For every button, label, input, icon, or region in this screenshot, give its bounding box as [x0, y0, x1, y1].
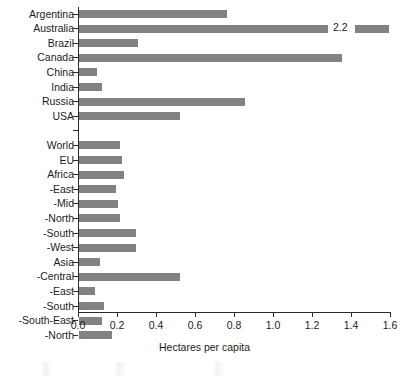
x-axis-tick-label: 0.6 — [175, 319, 215, 331]
bar-row: -South — [0, 299, 409, 314]
bar — [79, 185, 116, 193]
x-axis-tick — [195, 313, 196, 317]
category-label: Africa — [47, 167, 74, 182]
x-axis-tick-label: 1.0 — [253, 319, 293, 331]
bar-row: EU — [0, 153, 409, 168]
bar-chart: ArgentinaAustralia2.2BrazilCanadaChinaIn… — [0, 0, 409, 376]
bar — [79, 200, 118, 208]
bar-row: USA — [0, 109, 409, 124]
category-label: Russia — [42, 94, 74, 109]
bar — [79, 141, 120, 149]
scan-artifact — [0, 362, 409, 376]
category-label: Australia — [33, 21, 74, 36]
bar-row: Brazil — [0, 36, 409, 51]
bar-row: India — [0, 80, 409, 95]
category-label: World — [47, 138, 74, 153]
category-label: India — [51, 80, 74, 95]
category-label: EU — [59, 153, 74, 168]
bar — [79, 214, 120, 222]
bar-row: China — [0, 65, 409, 80]
x-axis-title: Hectares per capita — [0, 341, 409, 353]
bar — [79, 68, 97, 76]
category-label: Canada — [37, 50, 74, 65]
plot-area: ArgentinaAustralia2.2BrazilCanadaChinaIn… — [0, 0, 409, 312]
bar — [79, 258, 100, 266]
bar — [79, 54, 342, 62]
bar — [79, 171, 124, 179]
bar — [79, 302, 104, 310]
x-axis-tick — [78, 313, 79, 317]
category-label: USA — [52, 109, 74, 124]
bar — [79, 83, 102, 91]
x-axis-tick-label: 0.2 — [97, 319, 137, 331]
x-axis-tick — [390, 313, 391, 317]
bar — [79, 39, 138, 47]
bar — [79, 229, 136, 237]
x-axis-tick-label: 1.4 — [331, 319, 371, 331]
bar-row: -East — [0, 182, 409, 197]
category-label: Asia — [54, 255, 74, 270]
category-label: -East — [49, 182, 74, 197]
bar — [79, 331, 112, 339]
bar — [79, 273, 180, 281]
bar-row: World — [0, 138, 409, 153]
category-label: -Central — [37, 269, 74, 284]
bar-row: Asia — [0, 255, 409, 270]
x-axis-tick-label: 1.2 — [292, 319, 332, 331]
category-label: -West — [47, 240, 74, 255]
bar-row: -South — [0, 226, 409, 241]
x-axis-tick-label: 0.4 — [136, 319, 176, 331]
category-label: -North — [45, 211, 74, 226]
x-axis-tick — [312, 313, 313, 317]
category-label: -South — [43, 226, 74, 241]
bar-segment — [355, 25, 389, 33]
bar-value-annotation: 2.2 — [333, 20, 348, 35]
bar — [79, 244, 136, 252]
bar-row: -Central — [0, 270, 409, 285]
x-axis-tick-label: 0.0 — [58, 319, 98, 331]
bar — [79, 287, 95, 295]
bar-row: -West — [0, 241, 409, 256]
x-axis-tick — [234, 313, 235, 317]
bar-segment — [79, 25, 328, 33]
bar — [79, 98, 245, 106]
bar-row: -East — [0, 284, 409, 299]
bar-row: Argentina — [0, 7, 409, 22]
category-label: China — [47, 65, 74, 80]
bar — [79, 10, 227, 18]
x-axis-tick-label: 0.8 — [214, 319, 254, 331]
category-label: -Mid — [54, 196, 74, 211]
bar-row: Canada — [0, 51, 409, 66]
x-axis-tick-label: 1.6 — [370, 319, 409, 331]
bar — [79, 156, 122, 164]
bar-row — [0, 124, 409, 139]
bar-row: -North — [0, 211, 409, 226]
category-label: Brazil — [48, 36, 74, 51]
category-label: -South — [43, 299, 74, 314]
bar-row: Australia2.2 — [0, 22, 409, 37]
bar-row: -Mid — [0, 197, 409, 212]
x-axis-tick — [273, 313, 274, 317]
category-label: -East — [49, 284, 74, 299]
category-label: Argentina — [29, 7, 74, 22]
bar — [79, 112, 180, 120]
category-tick — [73, 130, 78, 131]
bar-row: Russia — [0, 95, 409, 110]
x-axis-tick — [156, 313, 157, 317]
x-axis-tick — [351, 313, 352, 317]
bar-row: Africa — [0, 168, 409, 183]
x-axis-tick — [117, 313, 118, 317]
